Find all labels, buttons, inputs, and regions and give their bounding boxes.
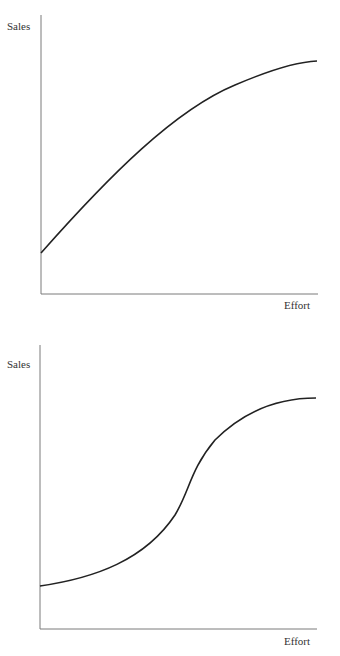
y-axis-label: Sales bbox=[7, 358, 30, 370]
chart-bottom: Sales Effort bbox=[0, 0, 340, 656]
chart-bottom-plot bbox=[0, 0, 340, 656]
x-axis-label: Effort bbox=[284, 635, 310, 647]
sales-curve bbox=[40, 398, 316, 586]
